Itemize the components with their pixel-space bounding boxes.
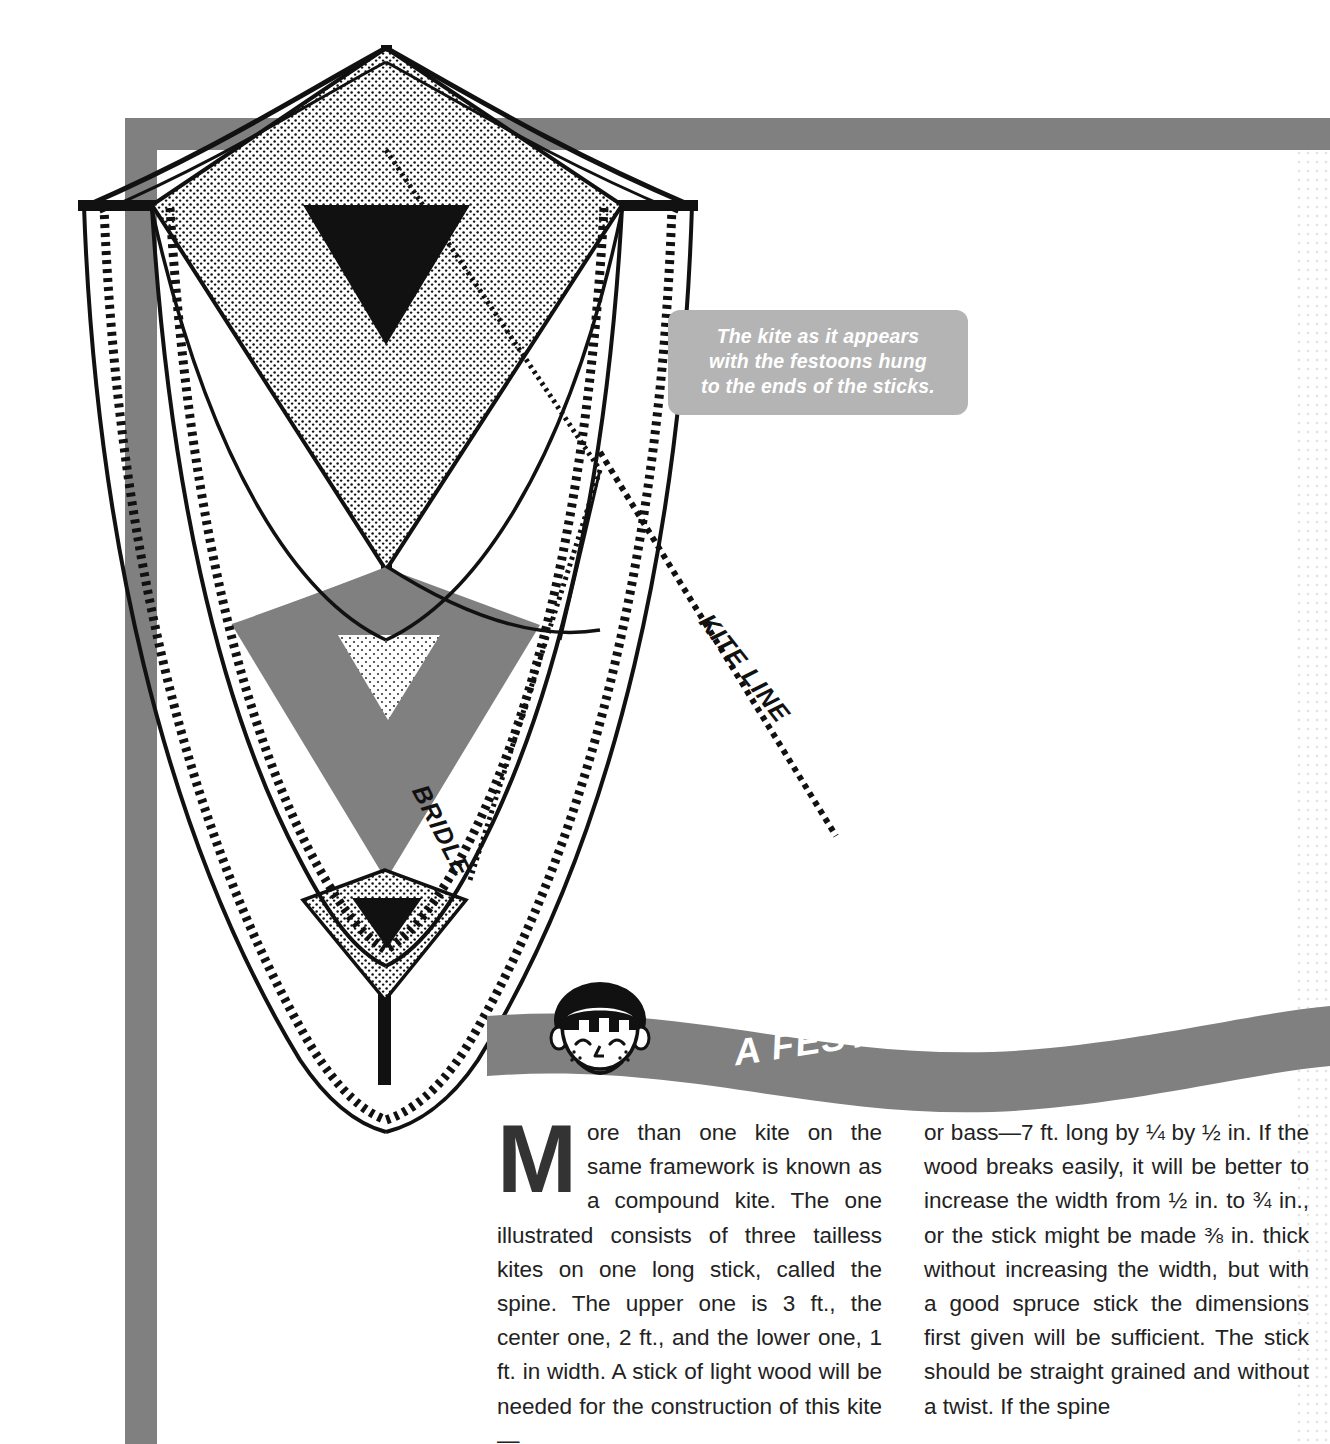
caption-callout: The kite as it appears with the festoons… [668,310,968,415]
caption-line-1: The kite as it appears [686,324,950,349]
article-column-right: or bass—7 ft. long by ¼ by ½ in. If the … [924,1116,1309,1444]
lower-kite [303,870,466,1000]
kite-spine [378,45,392,1085]
drop-cap: M [497,1122,577,1197]
center-kite [232,568,540,880]
bridle-label: BRIDLE [406,780,477,881]
frame-top-bar [125,118,1330,150]
kite-line-label: KITE LINE [693,608,796,728]
frame-left-bar [125,118,157,1444]
article-body: More than one kite on the same framework… [497,1116,1309,1444]
article-title: A FESTOONED KITE [731,980,1093,1075]
bridle-lines [386,150,600,880]
caption-line-2: with the festoons hung [686,349,950,374]
article-column-left: More than one kite on the same framework… [497,1116,882,1444]
caption-line-3: to the ends of the sticks. [686,374,950,399]
title-banner: A FESTOONED KITE [470,978,1330,1088]
page-canvas: KITE LINE BRIDLE The kite as it appears … [0,0,1330,1444]
